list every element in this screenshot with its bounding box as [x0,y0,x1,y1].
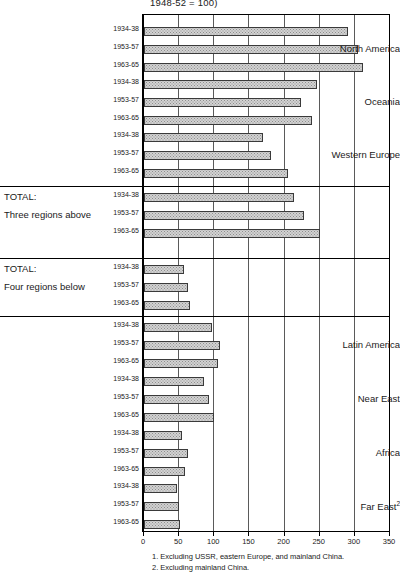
bar [144,283,188,292]
region-label: North America [264,43,400,54]
gridline-100 [213,15,214,531]
bar [144,27,348,36]
region-label: Far East2 [264,500,400,512]
bar [144,211,304,220]
chart-title: 1948-52 = 100) [150,0,390,8]
bar [144,431,182,440]
bar [144,229,320,238]
region-label: Near East [264,393,400,404]
bar [144,169,288,178]
bar [144,323,212,332]
period-label: 1953-57 [106,43,139,50]
x-tick-0 [143,532,144,536]
bar [144,116,312,125]
bar [144,395,209,404]
x-tick-250 [319,532,320,536]
x-tick-label-200: 200 [277,537,290,546]
bar [144,449,188,458]
bar [144,359,218,368]
x-tick-label-150: 150 [242,537,255,546]
x-tick-100 [213,532,214,536]
period-label: 1963-65 [106,465,139,472]
period-label: 1934-38 [106,321,139,328]
period-label: 1963-65 [106,114,139,121]
x-tick-label-300: 300 [348,537,361,546]
period-label: 1953-57 [106,96,139,103]
x-tick-350 [389,532,390,536]
bar [144,301,190,310]
period-label: 1934-38 [106,131,139,138]
x-tick-label-0: 0 [141,537,145,546]
period-label: 1953-57 [106,447,139,454]
period-label: 1963-65 [106,299,139,306]
section-divider-2 [0,258,390,259]
bar [144,265,184,274]
footnote-1: 1. Excluding USSR, eastern Europe, and m… [152,552,344,561]
bar [144,520,180,529]
period-label: 1963-65 [106,61,139,68]
period-label: 1934-38 [106,78,139,85]
bar [144,377,204,386]
period-label: 1963-65 [106,518,139,525]
period-label: 1953-57 [106,393,139,400]
region-label: Oceania [264,96,400,107]
bar [144,413,214,422]
period-label: 1963-65 [106,357,139,364]
section-divider-1 [0,186,390,187]
region-label-line2: Four regions below [4,281,136,292]
period-label: 1934-38 [106,375,139,382]
region-label: Africa [264,447,400,458]
x-tick-50 [178,532,179,536]
section-divider-3 [0,316,390,317]
bar [144,484,177,493]
bar [144,502,179,511]
period-label: 1963-65 [106,167,139,174]
bar [144,193,294,202]
period-label: 1934-38 [106,25,139,32]
x-tick-300 [354,532,355,536]
x-tick-label-250: 250 [312,537,325,546]
period-label: 1953-57 [106,500,139,507]
region-label: Latin America [264,339,400,350]
period-label: 1934-38 [106,429,139,436]
x-tick-label-100: 100 [207,537,220,546]
bar [144,467,185,476]
bar [144,151,271,160]
x-tick-label-50: 50 [174,537,182,546]
x-tick-150 [248,532,249,536]
region-label: Western Europe [264,149,400,160]
footnote-marker: 2 [396,500,400,507]
region-label: TOTAL: [4,191,136,202]
bar [144,133,263,142]
bar-chart: 1948-52 = 100) 1934-381953-571963-65Nort… [0,0,400,575]
bar [144,63,363,72]
x-tick-200 [284,532,285,536]
period-label: 1963-65 [106,227,139,234]
period-label: 1963-65 [106,411,139,418]
region-label-line2: Three regions above [4,209,136,220]
bar [144,80,317,89]
footnote-2: 2. Excluding mainland China. [152,563,249,572]
gridline-150 [248,15,249,531]
bar [144,341,220,350]
period-label: 1934-38 [106,482,139,489]
x-tick-label-350: 350 [383,537,396,546]
period-label: 1953-57 [106,149,139,156]
region-label: TOTAL: [4,263,136,274]
period-label: 1953-57 [106,339,139,346]
